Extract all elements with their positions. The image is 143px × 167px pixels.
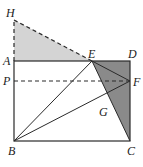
label-e: E [87, 47, 96, 61]
label-b: B [8, 144, 16, 158]
label-p: P [2, 74, 11, 88]
label-g: G [99, 105, 108, 119]
line-bf [14, 81, 130, 141]
geometry-diagram: H A E D P F G B C [0, 0, 143, 167]
label-a: A [2, 54, 11, 68]
label-c: C [127, 144, 136, 158]
line-be [14, 61, 92, 141]
label-h: H [5, 6, 16, 20]
diagram-canvas: H A E D P F G B C [0, 0, 143, 167]
label-d: D [127, 47, 137, 61]
label-f: F [132, 75, 141, 89]
